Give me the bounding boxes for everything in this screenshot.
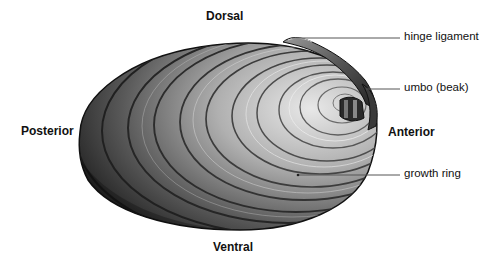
- ventral-label: Ventral: [213, 240, 253, 254]
- umbo-label: umbo (beak): [404, 81, 469, 93]
- posterior-label: Posterior: [21, 124, 74, 138]
- clam-shell-diagram: Dorsal Posterior Anterior Ventral hinge …: [0, 0, 491, 265]
- hinge-ligament-label: hinge ligament: [404, 30, 479, 42]
- growth-ring-label: growth ring: [404, 167, 461, 179]
- anterior-label: Anterior: [388, 125, 435, 139]
- dorsal-label: Dorsal: [206, 9, 243, 23]
